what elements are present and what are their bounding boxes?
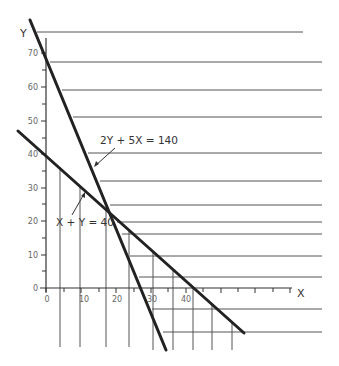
y-tick-40: 40 — [28, 150, 38, 159]
y-axis-ticks — [41, 53, 46, 271]
y-tick-20: 20 — [28, 217, 38, 226]
eq1-arrowhead-icon — [94, 161, 99, 167]
eq1-label: 2Y + 5X = 140 — [100, 134, 178, 146]
x-tick-10: 10 — [79, 295, 89, 304]
eq2-leader-arrow — [72, 194, 84, 215]
y-tick-30: 30 — [28, 184, 38, 193]
constraint-line-x-y-40 — [18, 131, 244, 333]
y-tick-10: 10 — [28, 251, 38, 260]
y-axis-label: Y — [19, 27, 27, 40]
x-tick-40: 40 — [181, 295, 191, 304]
linear-programming-diagram: 70 60 50 40 30 20 10 0 0 10 20 30 40 Y X… — [0, 0, 339, 366]
y-tick-50: 50 — [28, 117, 38, 126]
y-tick-70: 70 — [28, 49, 38, 58]
vertical-hatch-lines — [60, 167, 232, 350]
x-tick-30: 30 — [147, 295, 157, 304]
x-axis-ticks — [46, 288, 290, 293]
y-tick-0: 0 — [33, 284, 38, 293]
constraint-line-2y-5x-140 — [30, 20, 166, 350]
y-tick-60: 60 — [28, 83, 38, 92]
x-axis-label: X — [297, 287, 305, 300]
eq2-label: X + Y = 40 — [56, 216, 114, 228]
x-tick-0: 0 — [44, 295, 49, 304]
x-tick-20: 20 — [112, 295, 122, 304]
eq2-arrowhead-icon — [81, 192, 85, 198]
